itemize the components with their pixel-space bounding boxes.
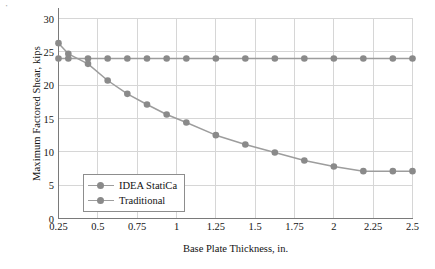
legend-item-traditional: Traditional xyxy=(88,193,177,208)
x-axis-ticks: 0.250.50.7511.251.51.7522.252.5 xyxy=(0,0,435,269)
x-tick-label: 2.5 xyxy=(387,221,435,232)
legend-item-idea-statica: IDEA StatiCa xyxy=(88,178,177,193)
chart-figure: ⋅ 051015202530 0.250.50.7511.251.51.7522… xyxy=(0,0,435,269)
legend-marker-icon xyxy=(88,181,114,191)
legend-label: Traditional xyxy=(119,195,165,206)
legend-label: IDEA StatiCa xyxy=(119,180,177,191)
legend-marker-icon xyxy=(88,196,114,206)
x-axis-title: Base Plate Thickness, in. xyxy=(58,243,413,254)
chart-legend: IDEA StatiCa Traditional xyxy=(83,174,185,212)
y-axis-title: Maximum Factored Shear, kips xyxy=(31,14,42,214)
